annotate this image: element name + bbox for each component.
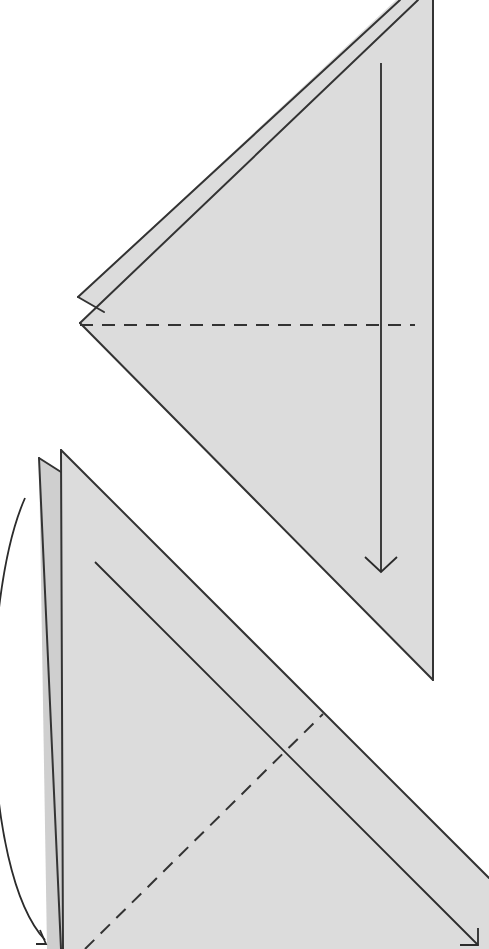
origami-diagram xyxy=(0,0,489,949)
turn-over-arrow xyxy=(0,498,45,940)
